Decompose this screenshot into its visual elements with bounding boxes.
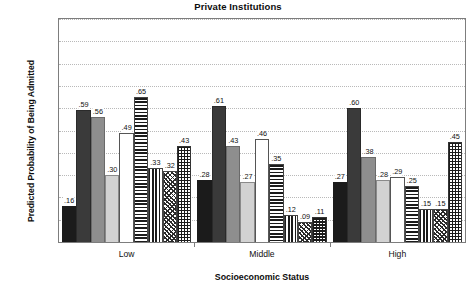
- bar: .60: [347, 108, 361, 242]
- bar-value-label: .15: [420, 199, 431, 209]
- bar-value-label: .11: [314, 207, 325, 217]
- bar-value-label: .27: [334, 172, 345, 182]
- bar: .27: [333, 182, 347, 242]
- bar: .12: [284, 215, 298, 242]
- gridline: [59, 19, 465, 20]
- bar-value-label: .35: [271, 154, 282, 164]
- bar-value-label: .16: [64, 196, 75, 206]
- bar-value-label: .30: [107, 165, 118, 175]
- bar: .28: [376, 180, 390, 242]
- bar: .56: [91, 117, 105, 242]
- gridline: [59, 108, 465, 109]
- x-axis-title: Socioeconomic Status: [58, 272, 466, 282]
- bar-value-label: .49: [121, 123, 132, 133]
- bar-value-label: .25: [406, 176, 417, 186]
- bar: .16: [62, 206, 76, 242]
- bar: .59: [76, 110, 90, 242]
- bar: .65: [134, 97, 148, 242]
- plot-area: 0.00.10.20.30.40.50.60.70.80.91.0.16.59.…: [58, 18, 466, 243]
- bar: .27: [240, 182, 254, 242]
- bar: .35: [269, 164, 283, 242]
- bar-value-label: .59: [78, 100, 89, 110]
- bar: .32: [163, 171, 177, 242]
- bar-value-label: .15: [435, 199, 446, 209]
- bar-value-label: .65: [135, 87, 146, 97]
- bar: .25: [405, 186, 419, 242]
- bar: .30: [105, 175, 119, 242]
- plot-inner: 0.00.10.20.30.40.50.60.70.80.91.0.16.59.…: [59, 19, 465, 242]
- y-axis-title: Predicted Probability of Being Admitted: [26, 41, 36, 241]
- bar-value-label: .33: [150, 158, 161, 168]
- bar-value-label: .38: [363, 147, 374, 157]
- bar-value-label: .43: [179, 136, 190, 146]
- bar: .15: [419, 209, 433, 242]
- gridline: [59, 41, 465, 42]
- x-group-label-high: High: [388, 249, 406, 259]
- bar-value-label: .27: [242, 172, 253, 182]
- bar-value-label: .28: [377, 170, 388, 180]
- bar: .43: [226, 146, 240, 242]
- bar: .09: [298, 222, 312, 242]
- bar: .49: [119, 133, 133, 242]
- x-tick-mark: [194, 242, 195, 247]
- bar: .45: [448, 142, 462, 242]
- bar: .11: [312, 217, 326, 242]
- bar-value-label: .43: [228, 136, 239, 146]
- bar-value-label: .29: [392, 167, 403, 177]
- bar-value-label: .60: [349, 98, 360, 108]
- bar: .15: [433, 209, 447, 242]
- x-group-label-middle: Middle: [249, 249, 274, 259]
- gridline: [59, 86, 465, 87]
- chart-title: Private Institutions: [0, 1, 476, 12]
- bar-value-label: .56: [92, 107, 103, 117]
- bar-value-label: .28: [199, 170, 210, 180]
- gridline: [59, 64, 465, 65]
- bar: .28: [197, 180, 211, 242]
- bar: .61: [212, 106, 226, 242]
- bar-value-label: .12: [285, 205, 296, 215]
- bar: .38: [361, 157, 375, 242]
- x-tick-mark: [330, 242, 331, 247]
- bar-value-label: .61: [213, 96, 224, 106]
- bar-value-label: .46: [256, 129, 267, 139]
- bar: .33: [148, 168, 162, 242]
- bar-value-label: .45: [449, 132, 460, 142]
- bar-value-label: .32: [164, 161, 175, 171]
- bar-value-label: .09: [300, 212, 311, 222]
- bar: .43: [177, 146, 191, 242]
- x-group-label-low: Low: [119, 249, 135, 259]
- bar: .46: [255, 139, 269, 242]
- bar: .29: [390, 177, 404, 242]
- chart-container: Private Institutions Predicted Probabili…: [0, 0, 476, 293]
